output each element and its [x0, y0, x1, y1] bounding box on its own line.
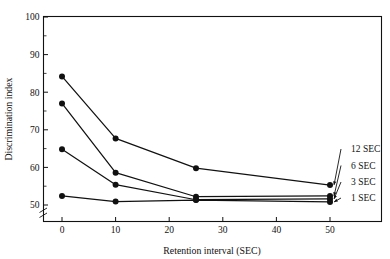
annotation-label: 12 SEC	[351, 144, 380, 154]
annotation-label: 6 SEC	[351, 161, 376, 171]
data-point	[59, 73, 65, 79]
data-point	[113, 135, 119, 141]
data-point	[113, 199, 119, 205]
y-tick-label-90: 90	[30, 50, 40, 60]
chart-background	[0, 0, 390, 259]
chart-figure: 5060708090100 01020304050 12 SEC6 SEC3 S…	[0, 0, 390, 259]
data-point	[193, 165, 199, 171]
x-axis-title: Retention interval (SEC)	[163, 245, 260, 257]
annotation-label: 3 SEC	[351, 177, 376, 187]
data-point	[327, 182, 333, 188]
x-tick-label-20: 20	[164, 225, 174, 235]
data-point	[59, 146, 65, 152]
y-tick-label-60: 60	[30, 163, 40, 173]
x-tick-label-50: 50	[325, 225, 335, 235]
line-chart: 5060708090100 01020304050 12 SEC6 SEC3 S…	[0, 0, 390, 259]
data-point	[113, 170, 119, 176]
data-point	[327, 199, 333, 205]
data-point	[193, 197, 199, 203]
data-point	[59, 193, 65, 199]
data-point	[113, 182, 119, 188]
y-tick-label-50: 50	[30, 200, 40, 210]
x-tick-label-30: 30	[218, 225, 228, 235]
y-axis-title: Discrimination index	[3, 77, 14, 160]
y-tick-label-70: 70	[30, 125, 40, 135]
x-tick-label-40: 40	[272, 225, 282, 235]
y-tick-label-80: 80	[30, 88, 40, 98]
data-point	[59, 100, 65, 106]
annotation-label: 1 SEC	[351, 193, 376, 203]
y-tick-label-100: 100	[25, 12, 40, 22]
x-tick-label-0: 0	[60, 225, 65, 235]
x-tick-label-10: 10	[111, 225, 121, 235]
